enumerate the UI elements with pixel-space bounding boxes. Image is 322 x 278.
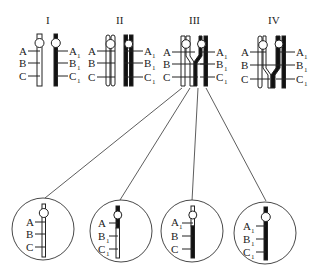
gene-C: C (241, 73, 248, 85)
gene-B1: B (144, 57, 151, 69)
svg-text:1: 1 (152, 78, 156, 86)
gene-A1: A (243, 220, 251, 232)
gene-A1: A (144, 45, 152, 57)
gene-A: A (163, 46, 171, 58)
gene-B: B (171, 230, 178, 242)
gene-B: B (241, 59, 248, 71)
gene-B1: B (296, 59, 303, 71)
gene-C1: C (216, 71, 223, 83)
svg-text:1: 1 (251, 253, 255, 261)
svg-text:1: 1 (179, 223, 183, 231)
gene-C1: C (243, 246, 250, 258)
gene-B: B (88, 57, 95, 69)
stage-I (28, 34, 68, 86)
stage-label-III: III (189, 14, 200, 26)
connector-lines (45, 88, 266, 201)
gene-A: A (19, 45, 27, 57)
gene-A: A (88, 45, 96, 57)
gene-A: A (98, 217, 106, 229)
stage-IV (250, 36, 295, 88)
svg-text:1: 1 (224, 53, 228, 61)
gene-B: B (19, 57, 26, 69)
gene-C: C (19, 70, 26, 82)
stage-II (97, 35, 143, 86)
svg-text:1: 1 (304, 66, 308, 74)
gene-B1: B (243, 233, 250, 245)
svg-text:1: 1 (77, 52, 81, 60)
gene-C1: C (98, 243, 105, 255)
stage-label-II: II (116, 14, 124, 26)
gene-A1: A (69, 45, 77, 57)
svg-text:1: 1 (152, 52, 156, 60)
gene-A1: A (171, 216, 179, 228)
stage-label-I: I (46, 14, 50, 26)
centromere (35, 39, 44, 48)
gene-B1: B (69, 57, 76, 69)
svg-text:1: 1 (251, 227, 255, 235)
svg-text:1: 1 (77, 77, 81, 85)
svg-text:1: 1 (224, 78, 228, 86)
gene-A1: A (216, 46, 224, 58)
gene-B: B (26, 228, 33, 240)
gene-A1: A (296, 46, 304, 58)
gene-C: C (88, 71, 95, 83)
svg-text:1: 1 (304, 53, 308, 61)
gene-B1: B (216, 58, 223, 70)
crossing-over-diagram: I II III IV A B C A1 B1 C1 A B (0, 0, 322, 278)
gene-C1: C (144, 71, 151, 83)
svg-text:1: 1 (152, 64, 156, 72)
gene-A: A (241, 46, 249, 58)
gene-B1: B (98, 230, 105, 242)
svg-text:1: 1 (106, 237, 110, 245)
gene-C1: C (296, 73, 303, 85)
stage-label-IV: IV (268, 14, 280, 26)
svg-text:1: 1 (224, 65, 228, 73)
gene-C: C (171, 243, 178, 255)
svg-text:1: 1 (251, 240, 255, 248)
product-circle-1 (12, 198, 74, 260)
gene-B: B (163, 58, 170, 70)
gene-C: C (26, 241, 33, 253)
gene-C1: C (69, 70, 76, 82)
gene-C: C (163, 71, 170, 83)
svg-text:1: 1 (77, 64, 81, 72)
svg-text:1: 1 (106, 250, 110, 258)
svg-text:1: 1 (304, 80, 308, 88)
stage-III (172, 36, 215, 86)
centromere (51, 39, 60, 48)
gene-A: A (26, 216, 34, 228)
